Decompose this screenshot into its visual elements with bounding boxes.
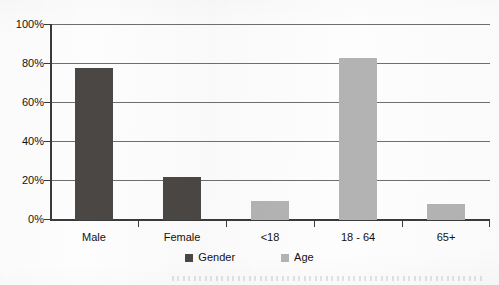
legend-item-age: Age xyxy=(281,252,314,263)
bar-chart: 100% 80% 60% 40% 20% 0% Male Female <18 … xyxy=(0,0,499,285)
chart-legend: Gender Age xyxy=(0,252,499,263)
legend-label-age: Age xyxy=(294,252,314,263)
x-axis-label-female: Female xyxy=(138,231,226,244)
bar-18-64-age xyxy=(339,58,377,220)
x-tick-5 xyxy=(489,221,490,227)
x-axis-label-under18: <18 xyxy=(226,231,314,244)
y-axis-label-60: 60% xyxy=(2,97,44,108)
y-axis-labels: 100% 80% 60% 40% 20% 0% xyxy=(0,24,44,221)
x-tick-3 xyxy=(314,221,315,227)
bar-male-gender xyxy=(75,68,113,220)
bar-65plus-age xyxy=(427,204,465,220)
y-axis-label-80: 80% xyxy=(2,58,44,69)
y-axis-label-20: 20% xyxy=(2,175,44,186)
y-axis-label-100: 100% xyxy=(2,19,44,30)
legend-swatch-age-icon xyxy=(281,254,289,262)
x-tick-2 xyxy=(226,221,227,227)
x-axis-label-65plus: 65+ xyxy=(402,231,490,244)
x-axis-label-18-64: 18 - 64 xyxy=(314,231,402,244)
bars-layer xyxy=(50,24,490,220)
x-axis-label-male: Male xyxy=(50,231,138,244)
legend-swatch-gender-icon xyxy=(185,254,193,262)
bar-female-gender xyxy=(163,177,201,220)
y-axis-label-40: 40% xyxy=(2,136,44,147)
legend-item-gender: Gender xyxy=(185,252,235,263)
scan-smudge xyxy=(172,276,482,281)
x-tick-1 xyxy=(138,221,139,227)
bar-under18-age xyxy=(251,201,289,221)
legend-label-gender: Gender xyxy=(198,252,235,263)
y-axis-label-0: 0% xyxy=(2,214,44,225)
x-tick-4 xyxy=(402,221,403,227)
